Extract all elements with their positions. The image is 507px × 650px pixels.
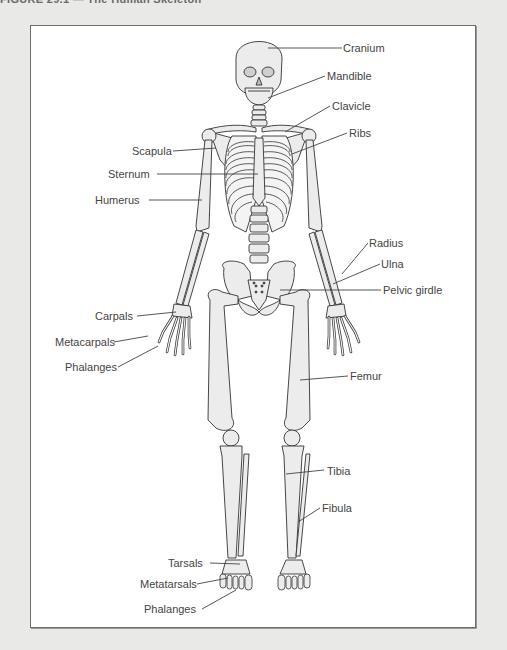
label-humerus: Humerus <box>95 194 140 206</box>
sternum <box>253 138 265 206</box>
label-metatarsals: Metatarsals <box>140 578 197 590</box>
label-ribs: Ribs <box>349 127 371 139</box>
label-radius: Radius <box>369 237 403 249</box>
skeleton-illustration <box>0 0 507 650</box>
clavicles <box>206 125 312 135</box>
tibia-fibula <box>220 446 310 558</box>
leader-lines <box>114 48 381 609</box>
label-phalanges-hand: Phalanges <box>65 361 117 373</box>
cervical-spine <box>251 105 267 126</box>
femur <box>208 290 310 431</box>
label-clavicle: Clavicle <box>332 100 371 112</box>
lumbar-spine <box>249 206 269 263</box>
patella <box>223 430 300 446</box>
label-cranium: Cranium <box>343 42 385 54</box>
label-femur: Femur <box>350 370 382 382</box>
mandible <box>245 88 273 105</box>
label-tarsals: Tarsals <box>168 557 203 569</box>
label-ulna: Ulna <box>381 258 404 270</box>
label-phalanges-foot: Phalanges <box>144 603 196 615</box>
pelvic-girdle <box>223 261 296 315</box>
label-metacarpals: Metacarpals <box>55 336 115 348</box>
label-sternum: Sternum <box>108 168 150 180</box>
label-scapula: Scapula <box>132 145 172 157</box>
toes <box>220 574 310 590</box>
label-pelvic-girdle: Pelvic girdle <box>383 284 442 296</box>
feet <box>222 560 306 574</box>
label-carpals: Carpals <box>95 310 133 322</box>
label-fibula: Fibula <box>322 502 352 514</box>
label-tibia: Tibia <box>327 465 350 477</box>
cranium <box>236 42 282 95</box>
label-mandible: Mandible <box>327 70 372 82</box>
